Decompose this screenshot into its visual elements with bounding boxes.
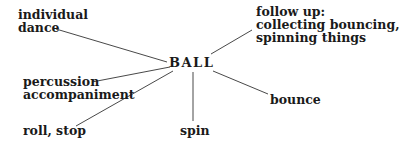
node-text-line: spinning things — [256, 31, 400, 44]
node-roll-stop: roll, stop — [23, 124, 86, 137]
connector-bounce — [213, 71, 268, 94]
node-text-line: spin — [180, 124, 210, 137]
node-percussion: percussion accompaniment — [23, 75, 135, 101]
node-text-line: bounce — [270, 93, 321, 106]
node-spin: spin — [180, 124, 210, 137]
node-follow-up: follow up: collecting bouncing, spinning… — [256, 5, 400, 44]
center-node-ball: BALL — [169, 55, 214, 70]
node-text-line: accompaniment — [23, 88, 135, 101]
node-text-line: dance — [18, 21, 88, 34]
node-text-line: roll, stop — [23, 124, 86, 137]
connector-follow-up — [211, 30, 252, 54]
node-individual-dance: individual dance — [18, 8, 88, 34]
node-bounce: bounce — [270, 93, 321, 106]
